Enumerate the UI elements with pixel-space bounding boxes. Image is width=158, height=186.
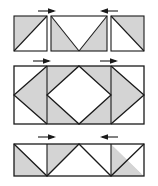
middle-row [14,58,144,124]
diagram-root: Triangle block tiling construction diagr… [0,0,158,186]
triangle-tiling-diagram [0,0,158,186]
rect-block-v-notch [51,16,107,51]
square-block-shaded-upper-right [111,16,144,51]
square-block-shaded-upper-left [14,16,47,51]
